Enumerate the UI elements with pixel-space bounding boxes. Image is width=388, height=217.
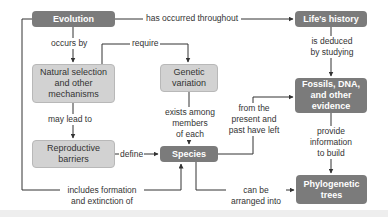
label-line: information bbox=[305, 137, 357, 148]
label-line: members bbox=[160, 118, 220, 129]
label-line: from the bbox=[223, 103, 285, 114]
node-genetic-variation: Genetic variation bbox=[160, 64, 218, 92]
label-line: past have left bbox=[223, 125, 285, 136]
label-line: includes formation bbox=[60, 185, 144, 196]
label-line: arranged into bbox=[226, 196, 286, 207]
label-may-lead-to: may lead to bbox=[48, 114, 92, 125]
label-line: of each bbox=[160, 129, 220, 140]
node-reproductive-barriers: Reproductive barriers bbox=[32, 140, 115, 168]
label-is-deduced: is deduced by studying bbox=[306, 36, 358, 58]
label-provide-information: provide information to build bbox=[305, 126, 357, 159]
label-line: is deduced bbox=[306, 36, 358, 47]
label-has-occurred: has occurred throughout bbox=[143, 13, 241, 24]
node-evolution: Evolution bbox=[32, 11, 115, 27]
label-line: provide bbox=[305, 126, 357, 137]
label-exists-among: exists among members of each bbox=[160, 107, 220, 140]
label-line: present and bbox=[223, 114, 285, 125]
label-line: can be bbox=[226, 185, 286, 196]
label-require: require bbox=[130, 38, 160, 49]
label-can-be-arranged: can be arranged into bbox=[226, 185, 286, 207]
label-includes-formation: includes formation and extinction of bbox=[60, 185, 144, 207]
label-from-the-present: from the present and past have left bbox=[223, 103, 285, 136]
label-define: define bbox=[119, 149, 144, 160]
label-occurs-by: occurs by bbox=[51, 38, 87, 49]
node-species: Species bbox=[160, 146, 218, 162]
node-fossils-dna: Fossils, DNA, and other evidence bbox=[295, 78, 367, 113]
node-phylogenetic-trees: Phylogenetic trees bbox=[296, 175, 367, 204]
label-line: and extinction of bbox=[60, 196, 144, 207]
node-lifes-history: Life's history bbox=[295, 11, 367, 27]
label-line: exists among bbox=[160, 107, 220, 118]
label-line: by studying bbox=[306, 47, 358, 58]
node-natural-selection: Natural selection and other mechanisms bbox=[32, 64, 115, 103]
label-line: to build bbox=[305, 148, 357, 159]
